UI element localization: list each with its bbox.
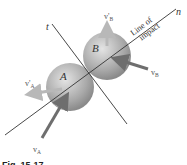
figure-caption: Fig. 15-17 <box>2 160 44 165</box>
label-n: n <box>176 6 181 17</box>
label-t: t <box>46 21 49 32</box>
oblique-impact-diagram: A B t n Line of impact v'B vB v'A vA Fig… <box>0 0 187 165</box>
label-vB: vB <box>151 68 159 78</box>
label-vA-prime: v'A <box>25 79 34 89</box>
label-vA: vA <box>33 145 41 155</box>
label-vB-prime: v'B <box>104 12 113 22</box>
label-b: B <box>92 42 99 54</box>
label-a: A <box>59 70 67 82</box>
